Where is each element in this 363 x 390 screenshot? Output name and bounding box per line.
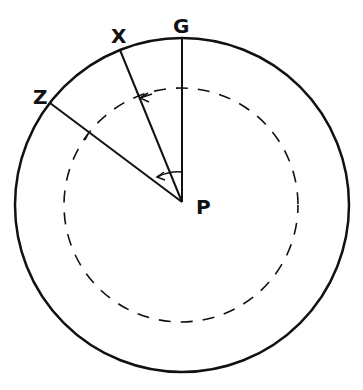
label-G: G <box>173 14 189 38</box>
label-P: P <box>196 195 211 219</box>
label-X: X <box>111 24 127 48</box>
label-Z: Z <box>33 85 48 109</box>
circle-diagram: G X Z P <box>0 0 363 390</box>
